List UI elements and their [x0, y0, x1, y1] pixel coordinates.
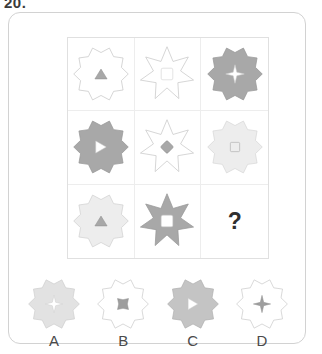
answer-option-b[interactable]: B: [94, 277, 152, 349]
inner-shape-square-small: [230, 143, 239, 152]
star-figure: [235, 277, 289, 331]
star-figure: [138, 118, 196, 176]
star-figure: [206, 118, 264, 176]
answer-option-a[interactable]: A: [25, 277, 83, 349]
question-mark: ?: [228, 210, 242, 233]
matrix-cell: [68, 38, 135, 111]
inner-shape-square: [162, 68, 174, 80]
answer-option-label: A: [49, 332, 59, 349]
inner-shape-square: [162, 216, 174, 228]
answer-options-row: ABCD: [25, 277, 291, 339]
matrix-cell-missing: ?: [201, 185, 268, 258]
matrix-cell: [68, 111, 135, 184]
matrix-cell: [68, 185, 135, 258]
answer-option-label: B: [118, 332, 128, 349]
answer-option-label: D: [257, 332, 268, 349]
matrix-cell: [201, 38, 268, 111]
star-figure: [72, 45, 130, 103]
star-figure: [206, 45, 264, 103]
puzzle-card: ? ABCD: [8, 12, 306, 344]
inner-shape-concave-four-point: [118, 299, 129, 310]
matrix-cell: [201, 111, 268, 184]
star-figure: [138, 45, 196, 103]
matrix-grid: ?: [67, 37, 269, 259]
matrix-cell: [135, 38, 202, 111]
star-figure: [72, 192, 130, 250]
answer-option-label: C: [187, 332, 198, 349]
star-figure: [96, 277, 150, 331]
star-figure: [27, 277, 81, 331]
answer-option-d[interactable]: D: [233, 277, 291, 349]
star-figure: [166, 277, 220, 331]
matrix-cell: [135, 185, 202, 258]
answer-option-c[interactable]: C: [164, 277, 222, 349]
question-number: 20.: [4, 0, 26, 11]
star-figure: [138, 192, 196, 250]
matrix-cell: [135, 111, 202, 184]
star-figure: [72, 118, 130, 176]
